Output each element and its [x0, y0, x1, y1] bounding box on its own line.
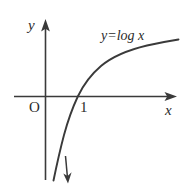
x-axis-label: x	[165, 103, 172, 118]
log-graph-figure: y x O 1 y=log x	[0, 0, 187, 191]
y-axis-label: y	[28, 18, 35, 33]
log-curve	[54, 40, 179, 181]
x-tick-label-1: 1	[80, 100, 88, 115]
curve-equation-label: y=log x	[101, 29, 144, 43]
down-arrow-annotation	[63, 156, 71, 184]
origin-label: O	[29, 100, 40, 115]
